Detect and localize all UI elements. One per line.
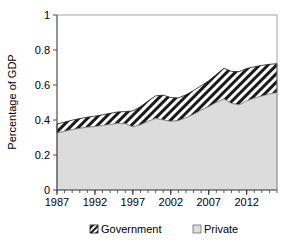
y-tick-label: 0.4: [35, 114, 50, 126]
plot-area: [57, 15, 277, 190]
legend-label-government: Government: [101, 223, 162, 235]
x-tick-label: 2012: [234, 196, 258, 208]
y-tick-label: 0.8: [35, 44, 50, 56]
chart-figure: 00.20.40.60.81 198719921997200220072012 …: [0, 0, 293, 248]
legend-swatch-government: [90, 225, 98, 233]
stacked-area-chart: 00.20.40.60.81 198719921997200220072012 …: [0, 0, 293, 248]
legend-swatch-private: [193, 225, 201, 233]
x-tick-label: 1987: [45, 196, 69, 208]
legend-label-private: Private: [204, 223, 238, 235]
x-tick-label: 2002: [159, 196, 183, 208]
x-tick-label: 1992: [83, 196, 107, 208]
x-tick-label: 2007: [196, 196, 220, 208]
y-tick-label: 0: [44, 184, 50, 196]
y-tick-label: 0.2: [35, 149, 50, 161]
y-axis-title: Percentage of GDP: [6, 54, 18, 149]
x-tick-label: 1997: [121, 196, 145, 208]
y-tick-label: 1: [44, 9, 50, 21]
y-tick-label: 0.6: [35, 79, 50, 91]
